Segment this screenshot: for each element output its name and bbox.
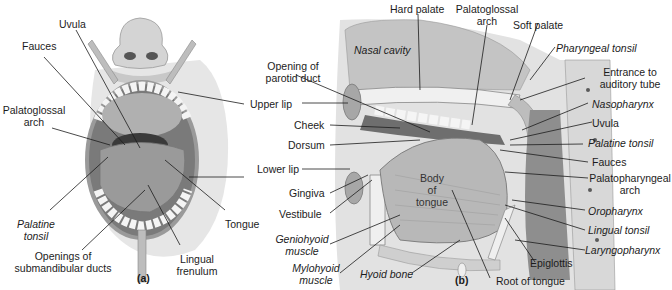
panel-tag-a: (a) (137, 272, 150, 284)
label-b-palatoglossal-arch: Palatoglossal arch (452, 3, 522, 27)
label-upper-lip: Upper lip (250, 98, 292, 110)
label-b-soft-palate: Soft palate (513, 19, 563, 31)
label-b-uvula: Uvula (592, 117, 619, 129)
label-b-dorsum: Dorsum (288, 139, 325, 151)
label-a-openings-submandibular-ducts: Openings of submandibular ducts (8, 250, 118, 274)
label-a-lingual-frenulum: Lingual frenulum (174, 253, 220, 277)
label-b-opening-parotid-duct: Opening of parotid duct (262, 60, 324, 84)
sagittal-section-drawing (335, 19, 615, 290)
label-b-entrance-auditory-tube: Entrance to auditory tube (596, 66, 664, 90)
label-a-tongue: Tongue (225, 218, 259, 230)
label-b-vestibule: Vestibule (279, 208, 322, 220)
label-b-palatopharyngeal-arch: Palatopharyngeal arch (588, 172, 672, 196)
label-b-mylohyoid-muscle: Mylohyoid muscle (290, 262, 342, 286)
label-a-fauces: Fauces (22, 40, 56, 52)
label-b-hyoid-bone: Hyoid bone (360, 268, 413, 280)
label-b-epiglottis: Epiglottis (530, 257, 573, 269)
label-b-hard-palate: Hard palate (390, 3, 444, 15)
label-lower-lip: Lower lip (257, 163, 299, 175)
panel-tag-b: (b) (455, 274, 468, 286)
label-a-uvula: Uvula (59, 18, 86, 30)
label-b-root-of-tongue: Root of tongue (496, 275, 565, 287)
label-b-body-of-tongue: Body of tongue (410, 172, 454, 208)
label-b-geniohyoid-muscle: Geniohyoid muscle (274, 233, 330, 257)
label-b-pharyngeal-tonsil: Pharyngeal tonsil (556, 42, 637, 54)
label-a-palatoglossal-arch: Palatoglossal arch (2, 104, 66, 128)
label-b-oropharynx: Oropharynx (588, 205, 643, 217)
label-b-cheek: Cheek (294, 119, 324, 131)
label-b-nasopharynx: Nasopharynx (592, 98, 654, 110)
label-b-lingual-tonsil: Lingual tonsil (588, 224, 649, 236)
label-b-fauces: Fauces (592, 156, 626, 168)
label-a-palatine-tonsil: Palatine tonsil (14, 218, 58, 242)
anterior-mouth-drawing (87, 18, 228, 282)
oral-cavity-diagram: Uvula Fauces Palatoglossal arch Palatine… (0, 0, 672, 290)
label-b-palatine-tonsil: Palatine tonsil (588, 137, 653, 149)
label-b-laryngopharynx: Laryngopharynx (585, 244, 660, 256)
label-b-gingiva: Gingiva (289, 187, 325, 199)
label-b-nasal-cavity: Nasal cavity (354, 44, 411, 56)
